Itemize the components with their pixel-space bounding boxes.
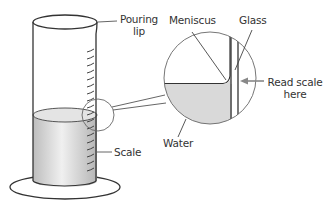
magnify-connector-bottom	[113, 103, 166, 110]
label-read-scale-line1: Read scale	[266, 76, 324, 88]
label-pouring-lip-line2: lip	[119, 25, 159, 37]
meniscus-leader	[192, 32, 226, 80]
cylinder-rim	[33, 15, 97, 29]
label-read-scale: Read scale here	[266, 76, 324, 100]
magnified-view	[160, 30, 256, 134]
label-scale: Scale	[114, 146, 141, 158]
label-pouring-lip: Pouring lip	[119, 13, 159, 37]
read-scale-arrow-icon	[240, 78, 264, 85]
magnify-connector-top	[112, 95, 165, 107]
label-pouring-lip-line1: Pouring	[119, 13, 159, 25]
water-leader	[178, 119, 186, 137]
label-meniscus: Meniscus	[169, 14, 216, 26]
water-column	[33, 108, 97, 187]
pouring-lip-leader	[98, 21, 117, 22]
label-read-scale-line2: here	[266, 88, 324, 100]
label-glass: Glass	[239, 14, 266, 26]
label-water: Water	[163, 137, 193, 149]
measuring-cylinder-diagram	[0, 0, 330, 207]
